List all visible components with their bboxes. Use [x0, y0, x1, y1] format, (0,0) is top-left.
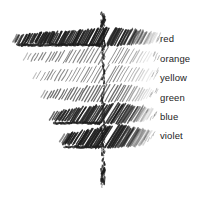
band-label-violet: violet	[160, 131, 183, 141]
band-label-green: green	[160, 93, 185, 103]
spectrum-figure: red orange yellow green blue violet	[0, 0, 207, 197]
band-label-orange: orange	[160, 54, 190, 64]
band-label-red: red	[160, 34, 174, 44]
band-label-yellow: yellow	[160, 73, 187, 83]
band-label-blue: blue	[160, 112, 178, 122]
